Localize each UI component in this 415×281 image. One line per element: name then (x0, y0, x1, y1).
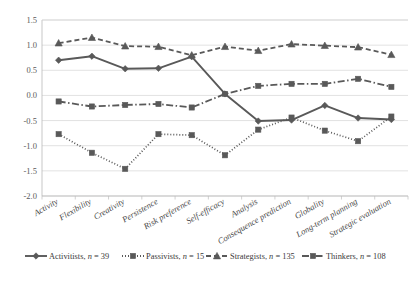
data-point-square (89, 104, 94, 109)
data-point-diamond (55, 57, 61, 63)
data-point-square (322, 81, 327, 86)
series-thinkers (56, 76, 394, 110)
data-point-square (123, 102, 128, 107)
legend-item-strategists[interactable]: Strategists, n = 135 (206, 252, 295, 261)
chart-canvas: 1.51.00.50.0-0.5-1.0-1.5-2.0ActivityFlex… (0, 0, 415, 281)
data-point-triangle (388, 51, 395, 57)
series-activitists (55, 53, 394, 124)
series-passivists (56, 114, 394, 171)
data-point-square (56, 99, 61, 104)
legend-n-value: = 108 (364, 252, 385, 261)
series-line (59, 117, 392, 169)
y-axis-tick-label: -2.0 (24, 191, 37, 201)
data-point-square (222, 153, 227, 158)
data-point-square (256, 127, 261, 132)
x-axis-tick-label: Flexibility (56, 196, 93, 223)
y-axis-tick-label: 0.5 (26, 65, 37, 75)
data-point-square (156, 101, 161, 106)
legend-name: Thinkers, (326, 252, 360, 261)
data-point-square (130, 253, 135, 258)
data-point-square (89, 150, 94, 155)
x-axis-tick-label: Strategic evaluation (327, 196, 392, 239)
legend-item-passivists[interactable]: Passivists, n = 15 (122, 252, 204, 261)
data-point-diamond (33, 253, 39, 259)
data-point-diamond (322, 102, 328, 108)
legend-label-activitists: Activitists, n = 39 (49, 252, 109, 261)
legend-n-value: = 15 (187, 252, 204, 261)
y-axis-tick-label: -0.5 (24, 116, 37, 126)
data-point-square (189, 133, 194, 138)
y-axis-tick-label: 1.5 (26, 15, 37, 25)
data-point-square (289, 81, 294, 86)
data-point-square (222, 91, 227, 96)
data-point-square (123, 166, 128, 171)
data-point-diamond (89, 53, 95, 59)
y-axis-tick-label: 0.0 (26, 90, 37, 100)
data-point-diamond (122, 66, 128, 72)
data-point-square (256, 83, 261, 88)
x-axis-tick-label: Self-efficacy (184, 196, 226, 226)
series-line (59, 56, 392, 121)
y-axis-tick-label: 1.0 (26, 40, 37, 50)
y-axis-tick-label: -1.5 (24, 166, 37, 176)
data-point-square (322, 128, 327, 133)
legend-label-thinkers: Thinkers, n = 108 (326, 252, 386, 261)
data-point-square (289, 115, 294, 120)
legend-item-thinkers[interactable]: Thinkers, n = 108 (302, 252, 386, 261)
legend-n-value: = 135 (273, 252, 294, 261)
data-point-square (310, 253, 315, 258)
data-point-square (355, 139, 360, 144)
legend-name: Strategists, (230, 252, 269, 261)
data-point-square (355, 76, 360, 81)
data-point-square (56, 132, 61, 137)
legend-name: Activitists, (49, 252, 88, 261)
data-point-square (189, 105, 194, 110)
data-point-square (389, 114, 394, 119)
legend-label-strategists: Strategists, n = 135 (230, 252, 295, 261)
legend-label-passivists: Passivists, n = 15 (146, 252, 204, 261)
legend-item-activitists[interactable]: Activitists, n = 39 (25, 252, 109, 261)
data-point-triangle (354, 44, 361, 50)
legend-n-value: = 39 (92, 252, 109, 261)
legend-name: Passivists, (146, 252, 183, 261)
line-chart: 1.51.00.50.0-0.5-1.0-1.5-2.0ActivityFlex… (0, 0, 415, 281)
data-point-square (389, 84, 394, 89)
data-point-square (156, 132, 161, 137)
series-strategists (55, 34, 395, 58)
y-axis-tick-label: -1.0 (24, 141, 37, 151)
data-point-triangle (88, 34, 95, 40)
